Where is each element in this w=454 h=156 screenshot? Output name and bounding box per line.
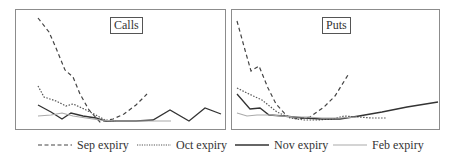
legend-item-oct: Oct expiry [137, 136, 227, 154]
dashed-line-icon [38, 143, 72, 147]
solid-line-icon [235, 143, 269, 147]
chart-legend: Sep expiry Oct expiry Nov expiry Feb exp… [0, 136, 454, 154]
puts-feb-line [237, 113, 357, 118]
legend-item-sep: Sep expiry [38, 136, 129, 154]
puts-title: Puts [322, 17, 351, 34]
legend-item-nov: Nov expiry [235, 136, 328, 154]
light-line-icon [333, 143, 367, 147]
calls-nov-line [38, 105, 221, 121]
legend-label-oct: Oct expiry [176, 138, 227, 153]
legend-label-nov: Nov expiry [274, 138, 328, 153]
calls-panel: Calls [15, 9, 226, 130]
puts-panel: Puts [231, 9, 440, 130]
calls-title: Calls [110, 17, 143, 34]
legend-label-feb: Feb expiry [372, 138, 424, 153]
legend-label-sep: Sep expiry [77, 138, 129, 153]
calls-oct-line [38, 86, 116, 121]
legend-item-feb: Feb expiry [333, 136, 424, 154]
dotted-line-icon [137, 143, 171, 147]
puts-sep-line [237, 21, 348, 119]
